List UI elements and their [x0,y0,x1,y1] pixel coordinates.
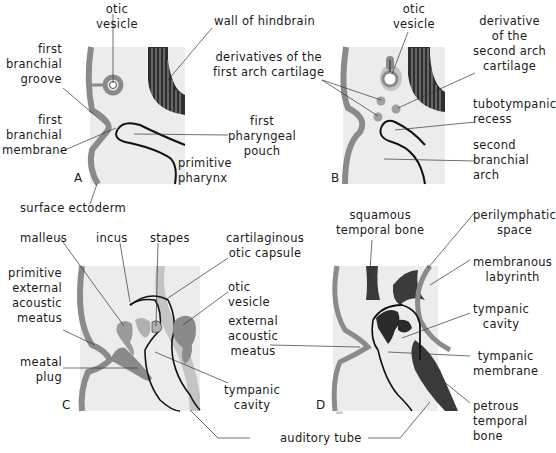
label-c-stapes: stapes [150,231,190,246]
artist-signature: del. [336,410,343,415]
panel-letter-c: C [62,398,70,412]
label-b-tubotympanic-recess: tubotympanic recess [473,97,556,127]
second-arch-derivative [392,105,401,114]
label-a-first-branchial-membrane: first branchial membrane [2,113,62,158]
panel-letter-b: B [331,171,339,185]
label-c-primitive-external-acoustic-meatus: primitive external acoustic meatus [2,266,62,326]
label-auditory-tube: auditory tube [280,431,362,446]
label-c-malleus: malleus [20,231,67,246]
label-c-tympanic-cavity: tympanic cavity [224,383,280,413]
label-c-cartilaginous-otic-capsule: cartilaginous otic capsule [226,231,304,261]
first-arch-derivative-1 [377,97,386,106]
label-surface-ectoderm: surface ectoderm [20,201,126,216]
label-b-second-branchial-arch: second branchial arch [473,138,529,183]
label-d-tympanic-cavity: tympanic cavity [473,302,529,332]
panel-letter-a: A [74,171,82,185]
label-d-squamous-temporal-bone: squamous temporal bone [336,208,424,238]
label-a-first-pharyngeal-pouch: first pharyngeal pouch [228,114,296,159]
label-c-incus: incus [96,231,128,246]
label-a-wall-of-hindbrain: wall of hindbrain [214,14,315,29]
label-c-otic-vesicle: otic vesicle [228,280,270,310]
label-a-primitive-pharynx: primitive pharynx [178,156,232,186]
label-a-first-branchial-groove: first branchial groove [2,42,62,87]
label-d-petrous-temporal-bone: petrous temporal bone [473,399,528,444]
panel-b [322,32,475,184]
label-d-perilymphatic-space: perilymphatic space [473,208,556,238]
label-b-derivatives-first-arch: derivatives of the first arch cartilage [213,50,324,80]
label-d-tympanic-membrane: tympanic membrane [473,349,538,379]
label-external-acoustic-meatus: external acoustic meatus [228,314,278,359]
panel-c [60,238,228,411]
label-c-meatal-plug: meatal plug [2,355,62,385]
label-b-otic-vesicle: otic vesicle [393,2,435,32]
panel-letter-d: D [316,398,325,412]
label-d-membranous-labyrinth: membranous labyrinth [473,255,552,285]
label-b-derivative-second-arch: derivative of the second arch cartilage [473,14,546,74]
label-a-otic-vesicle: otic vesicle [96,2,138,32]
